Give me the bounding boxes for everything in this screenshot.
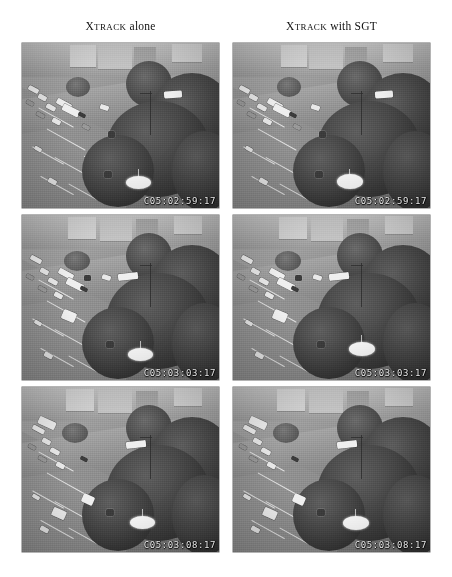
building-block [279, 217, 307, 240]
traffic-pole [150, 263, 151, 307]
building-block [172, 44, 202, 63]
tree-canopy [273, 423, 299, 443]
scene-aerial-intersection [233, 43, 430, 208]
burned-in-timecode: C05:02:59:17 [355, 196, 427, 206]
vehicle [84, 275, 91, 281]
column-headers: XTRACK alone XTRACK with SGT [0, 20, 452, 38]
tree-canopy [62, 423, 88, 443]
video-frame-panel: C05:03:03:17 [233, 215, 430, 380]
building-block [383, 44, 413, 63]
video-frame-panel: C05:02:59:17 [233, 43, 430, 208]
track-marker-ellipse [128, 348, 153, 361]
tree-canopy [66, 77, 90, 97]
track-marker-ellipse [337, 174, 363, 189]
building-block [281, 45, 307, 68]
column-header-left-rest: alone [127, 20, 156, 32]
building-block [277, 389, 305, 412]
building-block [100, 215, 132, 242]
column-header-right-cap: X [286, 20, 295, 32]
video-frame-panel: C05:03:08:17 [22, 387, 219, 552]
traffic-pole-arm [140, 93, 152, 94]
traffic-pole [150, 435, 151, 479]
vehicle-bus [375, 90, 393, 98]
track-marker-ellipse [130, 516, 155, 529]
burned-in-timecode: C05:03:08:17 [144, 540, 216, 550]
vehicle [317, 341, 325, 348]
vehicle [108, 131, 115, 138]
tree-canopy [64, 251, 90, 271]
column-header-xtrack-alone: XTRACK alone [22, 20, 219, 32]
traffic-pole-arm [351, 93, 363, 94]
building-block [70, 45, 96, 68]
building-block [309, 43, 343, 70]
vehicle [315, 171, 323, 178]
building-block [98, 43, 132, 70]
building-block [385, 388, 413, 407]
scene-aerial-intersection [22, 387, 219, 552]
track-marker-ellipse [126, 176, 151, 189]
traffic-pole-arm [140, 437, 152, 438]
burned-in-timecode: C05:02:59:17 [144, 196, 216, 206]
building-block [309, 387, 343, 414]
vehicle [104, 171, 112, 178]
building-block [311, 215, 343, 242]
vehicle [295, 275, 302, 281]
column-header-xtrack-with-sgt: XTRACK with SGT [233, 20, 430, 32]
track-marker-ellipse [349, 342, 375, 356]
column-header-left-smallcaps: TRACK [94, 22, 127, 32]
video-frame-panel: C05:03:08:17 [233, 387, 430, 552]
building-block [68, 217, 96, 240]
burned-in-timecode: C05:03:08:17 [355, 540, 427, 550]
tree-canopy [275, 251, 301, 271]
column-header-right-rest: with SGT [327, 20, 377, 32]
scene-aerial-intersection [22, 43, 219, 208]
burned-in-timecode: C05:03:03:17 [144, 368, 216, 378]
burned-in-timecode: C05:03:03:17 [355, 368, 427, 378]
vehicle [106, 509, 114, 516]
scene-aerial-intersection [22, 215, 219, 380]
traffic-pole-arm [140, 265, 152, 266]
scene-aerial-intersection [233, 215, 430, 380]
vehicle [317, 509, 325, 516]
column-header-right-smallcaps: TRACK [295, 22, 328, 32]
column-header-left-cap: X [85, 20, 94, 32]
vehicle-bus [164, 90, 182, 98]
building-block [98, 387, 132, 414]
traffic-pole [361, 91, 362, 135]
vehicle [106, 341, 114, 348]
building-block [174, 388, 202, 407]
traffic-pole [150, 91, 151, 135]
building-block [385, 216, 413, 235]
track-marker-ellipse [343, 516, 369, 530]
traffic-pole [361, 435, 362, 479]
traffic-pole-arm [351, 265, 363, 266]
vehicle [319, 131, 326, 138]
building-block [174, 216, 202, 235]
video-frame-panel: C05:02:59:17 [22, 43, 219, 208]
building-block [66, 389, 94, 412]
traffic-pole [361, 263, 362, 307]
video-frame-panel: C05:03:03:17 [22, 215, 219, 380]
tree-canopy [277, 77, 301, 97]
traffic-pole-arm [351, 437, 363, 438]
figure-tracking-comparison: XTRACK alone XTRACK with SGT [0, 0, 452, 577]
scene-aerial-intersection [233, 387, 430, 552]
